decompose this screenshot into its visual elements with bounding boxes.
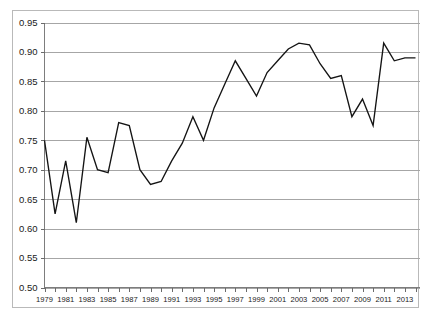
x-tick-label-18: 1997 <box>227 295 244 304</box>
x-tick-label-22: 2001 <box>269 295 286 304</box>
x-tick-label-8: 1987 <box>121 295 138 304</box>
y-tick-label-2: 0.60 <box>19 223 38 234</box>
y-tick-label-0: 0.50 <box>19 282 38 293</box>
x-tick-label-32: 2011 <box>376 295 392 304</box>
x-tick-label-12: 1991 <box>163 295 180 304</box>
y-tick-label-4: 0.70 <box>19 164 38 175</box>
line-chart: 0.500.550.600.650.700.750.800.850.900.95… <box>0 0 431 328</box>
x-tick-label-30: 2009 <box>354 295 371 304</box>
y-tick-label-9: 0.95 <box>19 17 38 28</box>
x-tick-label-10: 1989 <box>142 295 159 304</box>
x-tick-label-0: 1979 <box>36 295 53 304</box>
y-tick-label-5: 0.75 <box>19 135 38 146</box>
x-tick-label-2: 1981 <box>57 295 74 304</box>
y-tick-label-8: 0.90 <box>19 46 38 57</box>
x-tick-label-14: 1993 <box>184 295 201 304</box>
x-tick-label-34: 2013 <box>396 295 413 304</box>
y-tick-label-1: 0.55 <box>19 252 38 263</box>
x-tick-label-28: 2007 <box>333 295 350 304</box>
x-tick-label-4: 1983 <box>78 295 95 304</box>
y-axis <box>41 23 45 289</box>
gridlines <box>45 24 420 289</box>
y-tick-label-6: 0.80 <box>19 105 38 116</box>
y-axis-tick-labels: 0.500.550.600.650.700.750.800.850.900.95 <box>19 17 38 293</box>
x-tick-label-6: 1985 <box>100 295 117 304</box>
x-tick-label-24: 2003 <box>290 295 307 304</box>
x-tick-label-20: 1999 <box>248 295 265 304</box>
x-axis-tick-labels: 1979198119831985198719891991199319951997… <box>36 295 413 304</box>
series-line <box>45 43 416 223</box>
y-tick-label-3: 0.65 <box>19 194 38 205</box>
data-series-line <box>45 43 416 223</box>
y-tick-label-7: 0.85 <box>19 76 38 87</box>
x-tick-label-16: 1995 <box>206 295 223 304</box>
x-tick-label-26: 2005 <box>312 295 329 304</box>
